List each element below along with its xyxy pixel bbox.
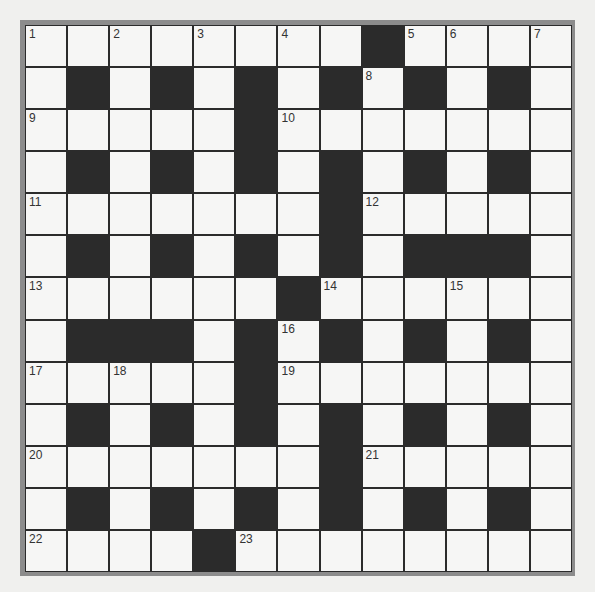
grid-cell[interactable] [405,531,445,571]
grid-cell[interactable] [489,110,529,150]
grid-cell[interactable]: 19 [278,363,318,403]
grid-cell[interactable] [68,26,108,66]
grid-cell[interactable] [531,531,571,571]
grid-cell[interactable] [405,194,445,234]
grid-cell[interactable] [489,363,529,403]
grid-cell[interactable] [447,68,487,108]
grid-cell[interactable] [278,236,318,276]
grid-cell[interactable] [321,531,361,571]
grid-cell[interactable] [152,363,192,403]
grid-cell[interactable]: 17 [26,363,66,403]
grid-cell[interactable]: 12 [363,194,403,234]
grid-cell[interactable] [405,110,445,150]
grid-cell[interactable] [531,321,571,361]
grid-cell[interactable] [110,531,150,571]
grid-cell[interactable] [26,68,66,108]
grid-cell[interactable] [321,110,361,150]
grid-cell[interactable] [278,68,318,108]
grid-cell[interactable] [236,278,276,318]
grid-cell[interactable] [194,236,234,276]
grid-cell[interactable]: 3 [194,26,234,66]
grid-cell[interactable] [363,489,403,529]
grid-cell[interactable] [152,531,192,571]
grid-cell[interactable] [236,447,276,487]
grid-cell[interactable] [236,194,276,234]
grid-cell[interactable] [363,405,403,445]
grid-cell[interactable] [110,68,150,108]
grid-cell[interactable]: 7 [531,26,571,66]
grid-cell[interactable] [447,321,487,361]
grid-cell[interactable]: 8 [363,68,403,108]
grid-cell[interactable]: 4 [278,26,318,66]
grid-cell[interactable] [26,489,66,529]
grid-cell[interactable] [531,405,571,445]
grid-cell[interactable] [363,278,403,318]
grid-cell[interactable] [110,489,150,529]
grid-cell[interactable] [363,321,403,361]
grid-cell[interactable]: 20 [26,447,66,487]
grid-cell[interactable] [194,321,234,361]
grid-cell[interactable] [26,152,66,192]
grid-cell[interactable] [68,278,108,318]
grid-cell[interactable] [152,278,192,318]
grid-cell[interactable] [68,363,108,403]
grid-cell[interactable]: 13 [26,278,66,318]
grid-cell[interactable] [531,152,571,192]
grid-cell[interactable] [278,489,318,529]
grid-cell[interactable] [194,68,234,108]
grid-cell[interactable] [194,489,234,529]
grid-cell[interactable] [110,152,150,192]
grid-cell[interactable] [405,363,445,403]
grid-cell[interactable] [531,278,571,318]
grid-cell[interactable] [152,110,192,150]
grid-cell[interactable] [531,194,571,234]
grid-cell[interactable]: 15 [447,278,487,318]
grid-cell[interactable] [531,363,571,403]
grid-cell[interactable] [152,447,192,487]
grid-cell[interactable]: 1 [26,26,66,66]
grid-cell[interactable] [68,110,108,150]
grid-cell[interactable] [489,447,529,487]
grid-cell[interactable] [194,363,234,403]
grid-cell[interactable] [363,236,403,276]
grid-cell[interactable] [447,531,487,571]
grid-cell[interactable] [278,194,318,234]
grid-cell[interactable] [278,152,318,192]
grid-cell[interactable] [531,236,571,276]
grid-cell[interactable] [531,110,571,150]
grid-cell[interactable]: 14 [321,278,361,318]
grid-cell[interactable] [278,447,318,487]
grid-cell[interactable]: 6 [447,26,487,66]
grid-cell[interactable] [489,531,529,571]
grid-cell[interactable] [363,110,403,150]
grid-cell[interactable] [110,405,150,445]
grid-cell[interactable] [26,236,66,276]
grid-cell[interactable] [194,110,234,150]
grid-cell[interactable]: 5 [405,26,445,66]
grid-cell[interactable] [110,110,150,150]
grid-cell[interactable]: 10 [278,110,318,150]
grid-cell[interactable] [321,26,361,66]
grid-cell[interactable] [447,110,487,150]
grid-cell[interactable] [447,194,487,234]
grid-cell[interactable] [68,531,108,571]
grid-cell[interactable] [447,405,487,445]
grid-cell[interactable] [363,531,403,571]
grid-cell[interactable] [489,278,529,318]
grid-cell[interactable]: 23 [236,531,276,571]
grid-cell[interactable] [363,363,403,403]
grid-cell[interactable] [110,194,150,234]
grid-cell[interactable] [363,152,403,192]
grid-cell[interactable] [447,489,487,529]
grid-cell[interactable] [405,447,445,487]
grid-cell[interactable] [194,152,234,192]
grid-cell[interactable]: 9 [26,110,66,150]
grid-cell[interactable]: 21 [363,447,403,487]
grid-cell[interactable] [194,278,234,318]
grid-cell[interactable]: 18 [110,363,150,403]
grid-cell[interactable] [110,236,150,276]
grid-cell[interactable] [152,26,192,66]
grid-cell[interactable]: 22 [26,531,66,571]
grid-cell[interactable]: 2 [110,26,150,66]
grid-cell[interactable] [194,405,234,445]
